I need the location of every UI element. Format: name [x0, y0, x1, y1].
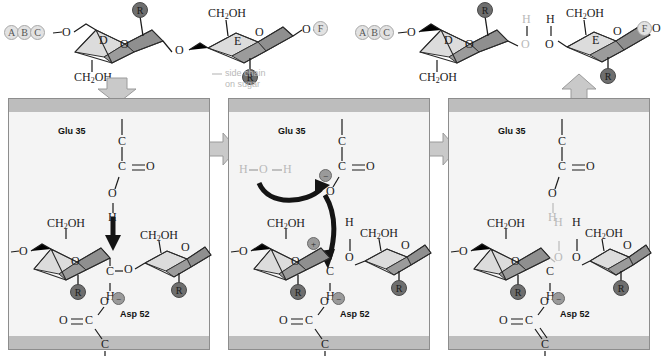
panel-1-glu-c-backbone: C: [118, 135, 126, 147]
panel-3-asp-o-double: O: [499, 314, 508, 326]
panel-2-c-anomeric: C: [326, 265, 334, 277]
panel-1-glu-o-double: O: [146, 160, 155, 172]
panel-3-ch2oh-left: CH2OH: [487, 217, 525, 231]
panel-2-water-h-right: H: [283, 163, 292, 175]
product-r-group-d: R: [477, 2, 493, 18]
panel-1-ring-o-right: O: [181, 241, 190, 253]
panel-2-ring-o-right: O: [401, 239, 410, 251]
panel-2-asp-c-backbone: C: [321, 338, 329, 350]
product-r-group-e: R: [600, 68, 616, 84]
product-ch2oh-d: CH2OH: [419, 71, 457, 85]
panel-3-asp-negative-charge: −: [552, 292, 565, 305]
product-ch2oh-e: CH2OH: [566, 7, 604, 21]
side-chain-annotation-line2: on sugar: [225, 79, 260, 89]
panel-1-glu-c-carboxyl: C: [118, 160, 126, 172]
panel-1-asp-label: Asp 52: [119, 309, 151, 319]
panel-1-c-anomeric: C: [106, 265, 114, 277]
panel-3-new-oh-h: H: [554, 216, 563, 228]
substrate-ring-o-e: O: [255, 26, 264, 38]
panel-1-skeleton: [9, 99, 211, 351]
chain-label-f: F: [313, 21, 328, 36]
panel-2-r-group-right: R: [391, 280, 407, 296]
substrate-ether-o-right: O: [302, 23, 311, 35]
panel-1-asp-c-backbone: C: [101, 338, 109, 350]
panel-2-asp-c-carboxyl: C: [305, 314, 313, 326]
panel-2-r-group-left: R: [290, 284, 306, 300]
panel-3-right-oh-h: H: [572, 216, 581, 228]
product-ring-o-e: O: [613, 25, 622, 37]
panel-2-ether-o-left: O: [239, 245, 248, 257]
panel-3-asp-c-backbone: C: [541, 338, 549, 350]
panel-2: Glu 35 C C O O − H O H CH2OH O O + R C H…: [228, 98, 430, 350]
panel-2-glu-c-backbone: C: [338, 135, 346, 147]
product-hydroxyl-h-d: H: [522, 13, 531, 25]
product-ether-o-left: O: [407, 26, 416, 38]
top-substrate-group: A B C O O D O O E O F CH2OH CH2OH R R si…: [0, 0, 330, 95]
top-products-group: A B C O O D CH2OH R O H O H O E CH2OH R …: [355, 0, 659, 95]
panel-1-glu-label: Glu 35: [57, 126, 87, 136]
substrate-glycosidic-o: O: [175, 44, 184, 56]
panel-3-new-oh-o: O: [554, 251, 563, 263]
panel-2-glu-c-carboxyl: C: [338, 160, 346, 172]
substrate-ring-o-d: O: [120, 38, 129, 50]
panel-2-ch2oh-right: CH2OH: [360, 227, 398, 241]
panel-3-skeleton: [449, 99, 651, 351]
panel-3-ring-o-left: O: [511, 255, 520, 267]
panel-1-glu-o-hydroxyl: O: [108, 187, 117, 199]
panel-1-r-group-left: R: [70, 284, 86, 300]
panel-1-ch2oh-left: CH2OH: [47, 217, 85, 231]
side-chain-annotation-line1: side chain: [225, 68, 266, 78]
substrate-skeleton: [0, 0, 330, 95]
product-chain-label-c: C: [379, 25, 394, 40]
panel-2-asp-o-minus: O: [320, 295, 329, 307]
substrate-ether-o-left: O: [62, 26, 71, 38]
sugar-d-label: D: [99, 33, 108, 48]
panel-3: Glu 35 C C O O H CH2OH O O R C H H O H O…: [448, 98, 650, 350]
panel-2-water-o: O: [259, 163, 268, 175]
panel-2-asp-label: Asp 52: [339, 309, 371, 319]
panel-1-asp-o-double: O: [59, 314, 68, 326]
panel-3-glu-c-backbone: C: [558, 135, 566, 147]
panel-2-glu-negative-charge: −: [319, 169, 332, 182]
panel-2-leaving-h: H: [345, 216, 354, 228]
product-hydroxyl-h-e: H: [546, 13, 555, 25]
panel-2-glu-o-minus: O: [326, 185, 335, 197]
panel-3-glu-o-hydroxyl: O: [548, 187, 557, 199]
panel-3-glu-label: Glu 35: [497, 126, 527, 136]
product-sugar-e-label: E: [592, 33, 599, 48]
panel-3-asp-o-minus: O: [540, 295, 549, 307]
panel-3-glu-c-carboxyl: C: [558, 160, 566, 172]
panel-1-r-group-right: R: [171, 282, 187, 298]
product-hydroxyl-o-d: O: [521, 38, 530, 50]
panel-1-asp-o-minus: O: [100, 295, 109, 307]
product-ether-o-e: O: [652, 22, 661, 34]
panel-3-asp-c-carboxyl: C: [525, 314, 533, 326]
panel-3-ring-o-right: O: [623, 239, 632, 251]
product-ring-o-d: O: [465, 38, 474, 50]
panel-1-asp-c-carboxyl: C: [85, 314, 93, 326]
substrate-r-group-d: R: [132, 2, 148, 18]
panel-1-asp-negative-charge: −: [112, 292, 125, 305]
panel-1-ch2oh-right: CH2OH: [140, 229, 178, 243]
panel-1-glycosidic-o: O: [124, 263, 133, 275]
substrate-ch2oh-e: CH2OH: [208, 7, 246, 21]
panel-1-ether-o-left: O: [19, 245, 28, 257]
panel-3-right-oh-o: O: [572, 251, 581, 263]
panel-2-oxocarbenium-positive-charge: +: [307, 237, 320, 250]
panel-1-ring-o-left: O: [71, 255, 80, 267]
panel-1-glu-h: H: [108, 211, 117, 223]
product-terminal-label-f: F: [637, 21, 652, 36]
chain-label-c: C: [30, 25, 45, 40]
panel-2-glu-label: Glu 35: [277, 126, 307, 136]
panel-3-asp-label: Asp 52: [559, 309, 591, 319]
panel-3-ether-o-left: O: [459, 245, 468, 257]
panel-3-ch2oh-right: CH2OH: [585, 227, 623, 241]
panel-2-skeleton: [229, 99, 431, 351]
panel-3-c-anomeric: C: [546, 265, 554, 277]
panel-2-water-h-left: H: [239, 163, 248, 175]
panel-2-ring-o-left: O: [291, 255, 300, 267]
panel-2-glu-o-double: O: [366, 160, 375, 172]
panel-2-asp-negative-charge: −: [332, 292, 345, 305]
panel-3-r-group-right: R: [613, 280, 629, 296]
panel-2-ch2oh-left: CH2OH: [267, 217, 305, 231]
